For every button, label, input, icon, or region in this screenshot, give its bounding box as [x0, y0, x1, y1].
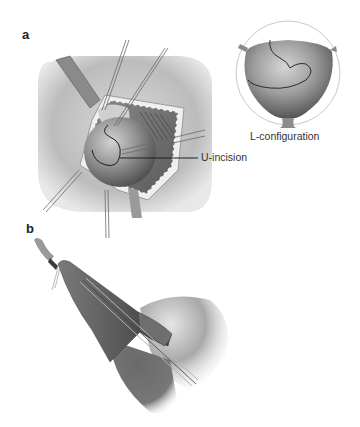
l-configuration-caption: L-configuration: [250, 131, 319, 142]
surgical-field-illustration: [0, 0, 360, 427]
panel-b-label: b: [26, 222, 34, 235]
organ-with-u-incision: [84, 117, 156, 187]
tubular-organ-illustration: [34, 238, 228, 415]
inset-l-configuration: [236, 21, 340, 128]
u-incision-callout: U-incision: [201, 152, 247, 163]
